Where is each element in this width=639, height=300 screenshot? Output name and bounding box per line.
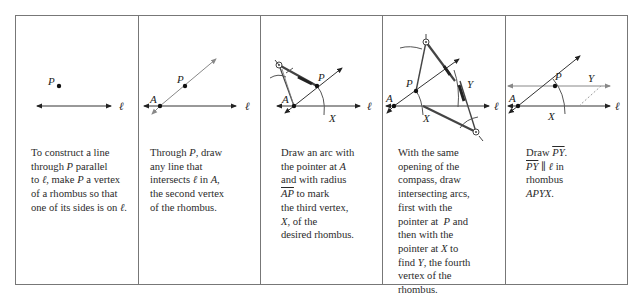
caption-line: then with the: [398, 228, 470, 242]
label-p: P: [405, 77, 413, 89]
step-3-panel: A P X ℓ Draw an arc with the pointer at …: [260, 15, 382, 285]
step-5-caption: Draw PY. PY ∥ ℓ in rhombus APYX.: [526, 146, 567, 201]
caption-line: compass, draw: [398, 173, 470, 187]
label-a: A: [281, 93, 289, 105]
compass-icon: [423, 81, 483, 141]
caption-line: of the rhombus.: [150, 201, 224, 215]
label-a: A: [385, 92, 393, 104]
caption-line: vertex of the: [398, 269, 470, 283]
label-p: P: [317, 71, 325, 83]
label-line-l: ℓ: [245, 100, 250, 112]
point-p-dot: [414, 89, 418, 93]
step-3-figure: A P X ℓ: [260, 15, 382, 145]
compass-icon: [416, 34, 455, 91]
caption-line: to ℓ, make P a vertex: [31, 173, 127, 187]
caption-line: any line that: [150, 160, 224, 174]
step-5-figure: A P Y X ℓ: [505, 15, 629, 145]
caption-line: and with radius: [281, 173, 354, 187]
caption-line: PY ∥ ℓ in: [526, 160, 567, 174]
caption-line: rhombus: [526, 173, 567, 187]
caption-line: Through P, draw: [150, 146, 224, 160]
transversal-line: [394, 59, 459, 106]
caption-line: desired rhombus.: [281, 228, 354, 242]
step-5-panel: A P Y X ℓ Draw PY. PY ∥ ℓ in rhombus APY…: [505, 15, 629, 285]
step-2-panel: A P ℓ Through P, draw any line that inte…: [138, 15, 260, 285]
point-p-dot: [57, 84, 61, 88]
step-2-caption: Through P, draw any line that intersects…: [150, 146, 224, 215]
caption-line: the second vertex: [150, 187, 224, 201]
step-3-caption: Draw an arc with the pointer at A and wi…: [281, 146, 354, 242]
step-2-figure: A P ℓ: [138, 15, 260, 145]
caption-line: rhombus.: [398, 283, 470, 297]
caption-line: Draw an arc with: [281, 146, 354, 160]
caption-line: the pointer at A: [281, 160, 354, 174]
label-p: P: [554, 70, 562, 82]
label-line-l: ℓ: [615, 100, 620, 112]
transversal-line: [160, 59, 216, 106]
step-4-figure: A P Y X ℓ: [382, 15, 505, 145]
label-x: X: [328, 112, 337, 124]
caption-line: the third vertex,: [281, 201, 354, 215]
arc-intersect: [454, 70, 459, 107]
step-1-caption: To construct a line through P parallel t…: [31, 146, 127, 215]
caption-line: one of its sides is on ℓ.: [31, 201, 127, 215]
label-line-l: ℓ: [119, 100, 124, 112]
transversal-line: [518, 56, 580, 106]
caption-line: intersects ℓ in A,: [150, 173, 224, 187]
step-1-figure: P ℓ: [15, 15, 138, 145]
label-x: X: [422, 112, 431, 124]
label-p: P: [176, 73, 184, 85]
label-a: A: [508, 92, 516, 104]
step-1-panel: P ℓ To construct a line through P parall…: [15, 15, 138, 285]
label-p: P: [47, 75, 55, 87]
caption-line: first with the: [398, 201, 470, 215]
caption-line: Draw PY.: [526, 146, 567, 160]
arc-from-a: [317, 86, 324, 115]
arc-from-a: [416, 91, 423, 115]
caption-line: find Y, the fourth: [398, 256, 470, 270]
label-a: A: [149, 93, 157, 105]
caption-line: opening of the: [398, 160, 470, 174]
caption-line: APYX.: [526, 187, 567, 201]
caption-line: intersecting arcs,: [398, 187, 470, 201]
point-a-dot: [392, 104, 396, 108]
label-line-l: ℓ: [494, 100, 499, 112]
caption-line: To construct a line: [31, 146, 127, 160]
caption-line: X, of the: [281, 215, 354, 229]
point-a-dot: [158, 104, 162, 108]
point-p-dot: [553, 84, 557, 88]
point-p-dot: [315, 84, 319, 88]
caption-line: AP to mark: [281, 187, 354, 201]
caption-line: pointer at P and: [398, 215, 470, 229]
label-y: Y: [588, 72, 596, 84]
caption-line: through P parallel: [31, 160, 127, 174]
side-xy: [579, 86, 601, 106]
caption-line: of a rhombus so that: [31, 187, 127, 201]
step-4-panel: A P Y X ℓ With the same opening of the c…: [382, 15, 505, 285]
label-y: Y: [467, 78, 475, 90]
point-a-dot: [516, 104, 520, 108]
label-line-l: ℓ: [367, 100, 372, 112]
point-a-dot: [292, 104, 296, 108]
caption-line: pointer at X to: [398, 242, 470, 256]
caption-line: With the same: [398, 146, 470, 160]
step-4-caption: With the same opening of the compass, dr…: [398, 146, 470, 297]
label-x: X: [547, 110, 556, 122]
